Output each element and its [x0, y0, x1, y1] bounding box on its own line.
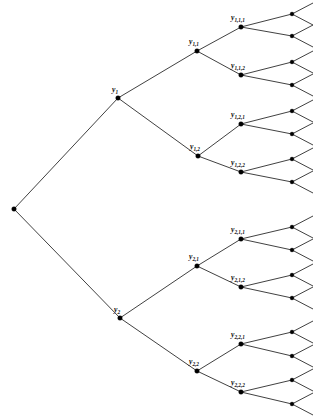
tree-node-leaf_7 [290, 157, 294, 161]
node-label-y1: y1 [111, 85, 118, 95]
tree-node-y1_2_1 [239, 122, 244, 127]
tree-twig [292, 356, 313, 367]
tree-edge [241, 332, 292, 344]
node-label-y1_1_2: y1,1,2 [230, 61, 245, 71]
node-label-y1_1_1: y1,1,1 [230, 13, 245, 23]
label-layer: y1y2y1,1y1,2y2,1y2,2y1,1,1y1,1,2y1,2,1y1… [111, 13, 245, 388]
tree-node-y1_2 [196, 154, 201, 159]
twig-layer [292, 3, 313, 415]
tree-edge [241, 111, 292, 124]
tree-edge [241, 124, 292, 134]
tree-node-y2_1_2 [239, 285, 244, 290]
tree-twig [292, 345, 313, 356]
tree-edge [14, 98, 118, 209]
tree-node-leaf_11 [290, 273, 294, 277]
tree-svg-canvas: y1y2y1,1y1,2y2,1y2,2y1,1,1y1,1,2y1,2,1y1… [0, 0, 313, 417]
tree-node-leaf_1 [290, 12, 294, 16]
tree-edge [241, 62, 292, 75]
tree-twig [292, 3, 313, 14]
tree-twig [292, 298, 313, 309]
tree-twig [292, 332, 313, 343]
tree-node-leaf_2 [290, 34, 294, 38]
tree-twig [292, 216, 313, 227]
tree-edge [241, 380, 292, 392]
tree-node-leaf_9 [290, 225, 294, 229]
tree-twig [292, 51, 313, 62]
tree-twig [292, 380, 313, 391]
tree-twig [292, 36, 313, 47]
tree-twig [292, 393, 313, 404]
tree-twig [292, 404, 313, 415]
tree-twig [292, 287, 313, 298]
tree-edge [241, 392, 292, 404]
tree-twig [292, 148, 313, 159]
tree-twig [292, 62, 313, 73]
tree-edge [241, 172, 292, 182]
tree-twig [292, 369, 313, 380]
tree-node-leaf_3 [290, 60, 294, 64]
node-label-y1_2_1: y1,2,1 [230, 110, 245, 120]
tree-twig [292, 134, 313, 145]
node-label-y1_2_2: y1,2,2 [230, 158, 245, 168]
tree-twig [292, 250, 313, 261]
tree-node-leaf_10 [290, 248, 294, 252]
tree-node-leaf_8 [290, 180, 294, 184]
tree-twig [292, 321, 313, 332]
tree-edge [241, 159, 292, 172]
node-label-y1_1: y1,1 [188, 37, 199, 47]
tree-twig [292, 227, 313, 238]
tree-node-leaf_4 [290, 83, 294, 87]
node-label-y1_2: y1,2 [189, 142, 200, 152]
tree-node-y2_1 [195, 264, 200, 269]
tree-node-y1_1_2 [239, 73, 244, 78]
tree-twig [292, 123, 313, 134]
tree-edge [241, 27, 292, 36]
tree-edge [197, 51, 241, 75]
tree-node-y2_2 [195, 369, 200, 374]
tree-node-root [12, 207, 17, 212]
tree-node-leaf_6 [290, 132, 294, 136]
tree-edge [241, 75, 292, 85]
node-label-y2_2_1: y2,2,1 [230, 330, 245, 340]
tree-edge [241, 275, 292, 287]
node-label-y2_2: y2,2 [188, 357, 199, 367]
tree-node-y2_1_1 [239, 237, 244, 242]
tree-twig [292, 85, 313, 96]
tree-node-y1 [116, 96, 121, 101]
tree-node-y2_2_2 [239, 390, 244, 395]
tree-node-leaf_15 [290, 378, 294, 382]
tree-edge [241, 344, 292, 356]
tree-edge [241, 239, 292, 250]
tree-edge [197, 239, 241, 266]
tree-twig [292, 14, 313, 25]
node-label-y2_1: y2,1 [188, 252, 199, 262]
tree-node-y2 [118, 316, 123, 321]
tree-twig [292, 264, 313, 275]
tree-node-leaf_13 [290, 330, 294, 334]
tree-twig [292, 171, 313, 182]
node-label-y2_1_1: y2,1,1 [230, 225, 245, 235]
tree-node-y1_2_2 [239, 170, 244, 175]
tree-twig [292, 239, 313, 250]
tree-edge [120, 266, 197, 318]
node-label-y2: y2 [113, 305, 120, 315]
tree-edge [120, 318, 197, 371]
tree-edge [118, 51, 197, 98]
tree-twig [292, 159, 313, 170]
tree-twig [292, 25, 313, 36]
node-label-y2_1_2: y2,1,2 [230, 273, 245, 283]
tree-edge [197, 344, 241, 371]
tree-twig [292, 275, 313, 286]
node-label-y2_2_2: y2,2,2 [230, 378, 245, 388]
tree-node-leaf_14 [290, 354, 294, 358]
tree-edge [14, 209, 120, 318]
tree-twig [292, 111, 313, 122]
tree-edge [241, 14, 292, 27]
tree-edge [118, 98, 198, 156]
tree-edge [198, 124, 241, 156]
tree-edge [241, 287, 292, 298]
tree-node-leaf_16 [290, 402, 294, 406]
tree-node-leaf_12 [290, 296, 294, 300]
tree-node-y1_1 [195, 49, 200, 54]
tree-twig [292, 182, 313, 193]
